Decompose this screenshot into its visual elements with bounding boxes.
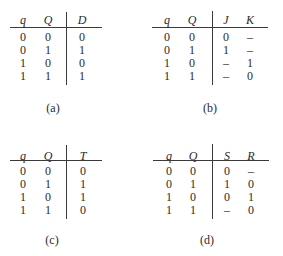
cell: 0 [41, 31, 55, 43]
cell: 1 [75, 44, 89, 56]
cell: 0 [41, 191, 55, 203]
cell: 1 [185, 70, 199, 82]
cell: 0 [185, 31, 199, 43]
header-Q: Q [185, 14, 199, 26]
caption: (a) [38, 102, 68, 114]
cell: 1 [16, 204, 30, 216]
header-rule [10, 160, 102, 161]
cell: 1 [220, 178, 234, 190]
cell: 1 [41, 204, 55, 216]
cell: 0 [244, 204, 258, 216]
cell: 0 [186, 191, 200, 203]
cell: 1 [76, 178, 90, 190]
header-K: K [243, 14, 257, 26]
caption: (c) [37, 234, 67, 246]
cell: 1 [243, 57, 257, 69]
cell: 1 [16, 70, 30, 82]
cell: 0 [243, 70, 257, 82]
cell: 0 [16, 44, 30, 56]
cell: 1 [76, 191, 90, 203]
cell: 1 [186, 178, 200, 190]
cell: 0 [244, 178, 258, 190]
column-divider [66, 145, 67, 219]
header-rule [153, 160, 269, 161]
cell: 1 [162, 204, 176, 216]
column-divider [66, 12, 67, 85]
column-divider [212, 11, 213, 85]
cell: 0 [75, 57, 89, 69]
header-J: J [219, 14, 233, 26]
cell: 0 [16, 31, 30, 43]
column-divider [212, 144, 213, 219]
cell: – [244, 165, 258, 177]
caption: (d) [192, 234, 222, 246]
header-rule [152, 27, 268, 28]
cell: 0 [185, 57, 199, 69]
cell: – [243, 44, 257, 56]
cell: 1 [41, 178, 55, 190]
cell: 1 [75, 70, 89, 82]
cell: 0 [160, 44, 174, 56]
cell: – [243, 31, 257, 43]
cell: 0 [160, 31, 174, 43]
cell: 0 [162, 178, 176, 190]
cell: 0 [16, 165, 30, 177]
cell: 0 [76, 165, 90, 177]
cell: 0 [220, 191, 234, 203]
header-D: D [75, 14, 89, 26]
caption: (b) [195, 102, 225, 114]
cell: 0 [219, 31, 233, 43]
cell: – [219, 70, 233, 82]
cell: 1 [160, 57, 174, 69]
cell: 0 [41, 57, 55, 69]
cell: 1 [16, 57, 30, 69]
cell: 1 [41, 70, 55, 82]
cell: – [219, 57, 233, 69]
cell: 1 [162, 191, 176, 203]
cell: 0 [16, 178, 30, 190]
cell: – [220, 204, 234, 216]
cell: 0 [162, 165, 176, 177]
cell: 1 [186, 204, 200, 216]
cell: 1 [160, 70, 174, 82]
cell: 1 [41, 44, 55, 56]
cell: 0 [41, 165, 55, 177]
cell: 0 [220, 165, 234, 177]
header-q: q [16, 14, 30, 26]
header-rule [10, 27, 102, 28]
cell: 1 [219, 44, 233, 56]
header-Q: Q [41, 14, 55, 26]
cell: 0 [76, 204, 90, 216]
cell: 1 [185, 44, 199, 56]
cell: 1 [244, 191, 258, 203]
cell: 0 [186, 165, 200, 177]
cell: 1 [16, 191, 30, 203]
header-q: q [160, 14, 174, 26]
cell: 0 [75, 31, 89, 43]
